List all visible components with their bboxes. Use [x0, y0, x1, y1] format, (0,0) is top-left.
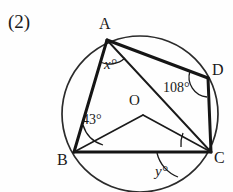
vertex-label-B: B [57, 152, 68, 168]
vertex-label-C: C [214, 150, 225, 166]
segment-OC [143, 115, 211, 152]
geometry-figure: (2) A D C B O x° 108° 43° y° [0, 0, 233, 192]
circle-center-label-O: O [129, 93, 140, 108]
angle-label-x: x° [104, 57, 117, 72]
geometry-drawing [0, 0, 233, 192]
vertex-label-D: D [212, 62, 224, 78]
segment-AB [74, 40, 107, 152]
angle-label-43: 43° [82, 113, 102, 127]
angle-label-y: y° [155, 164, 168, 179]
segment-DC [208, 78, 211, 152]
segment-AC [107, 40, 211, 152]
vertex-label-A: A [99, 16, 111, 32]
segment-AD [107, 40, 208, 78]
angle-label-108: 108° [163, 81, 190, 95]
